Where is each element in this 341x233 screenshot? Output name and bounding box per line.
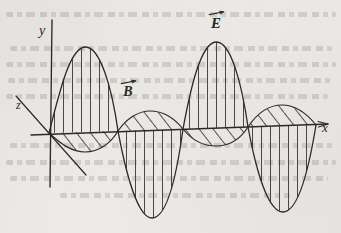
e-vector-arrow-icon bbox=[208, 10, 225, 17]
em-wave-figure bbox=[0, 0, 341, 233]
z-axis-label: z bbox=[16, 99, 21, 111]
b-vector-arrow-icon bbox=[120, 79, 137, 86]
b-vector-label: B bbox=[120, 85, 136, 99]
figure-page: y z x E B bbox=[0, 0, 341, 233]
y-axis-label: y bbox=[39, 24, 45, 38]
y-axis bbox=[50, 20, 52, 187]
e-vector-label: E bbox=[208, 16, 224, 31]
b-vector-letter: B bbox=[123, 84, 132, 99]
x-axis-label: x bbox=[322, 121, 328, 134]
e-vector-letter: E bbox=[211, 15, 221, 31]
